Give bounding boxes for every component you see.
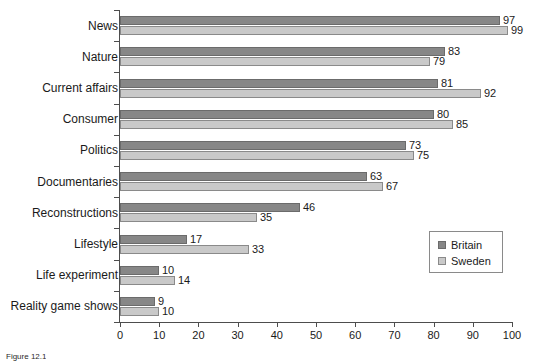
y-axis-tick <box>114 291 119 292</box>
bar-britain <box>120 172 367 181</box>
x-axis-tick-label: 30 <box>231 329 243 342</box>
y-axis-tick <box>114 10 119 11</box>
bar-value-label: 99 <box>511 25 523 36</box>
x-axis-tick <box>434 322 435 327</box>
bar-value-label: 35 <box>260 212 272 223</box>
bar-value-label: 85 <box>456 119 468 130</box>
legend-label-sweden: Sweden <box>451 255 491 267</box>
bar-value-label: 81 <box>441 78 453 89</box>
x-axis-tick <box>120 322 121 327</box>
x-axis-tick <box>473 322 474 327</box>
category-label: Consumer <box>0 112 118 126</box>
bar-sweden <box>120 182 383 191</box>
category-label: News <box>0 19 118 33</box>
x-axis-tick <box>159 322 160 327</box>
bar-value-label: 10 <box>162 306 174 317</box>
category-label: Reality game shows <box>0 299 118 313</box>
bar-value-label: 92 <box>484 88 496 99</box>
legend-swatch-britain <box>438 241 446 249</box>
legend-item-sweden: Sweden <box>438 255 491 267</box>
bar-britain <box>120 235 187 244</box>
category-label: Lifestyle <box>0 237 118 251</box>
x-axis-tick-label: 40 <box>271 329 283 342</box>
bar-value-label: 67 <box>386 181 398 192</box>
bar-value-label: 80 <box>437 109 449 120</box>
bar-britain <box>120 47 445 56</box>
category-label: Life experiment <box>0 268 118 282</box>
x-axis-tick <box>198 322 199 327</box>
legend-label-britain: Britain <box>451 239 482 251</box>
y-axis-tick <box>114 322 119 323</box>
figure-caption: Figure 12.1 <box>6 352 46 362</box>
y-axis-tick <box>114 197 119 198</box>
y-axis-tick <box>114 41 119 42</box>
x-axis-tick-label: 20 <box>192 329 204 342</box>
x-axis-tick <box>316 322 317 327</box>
category-label: Reconstructions <box>0 206 118 220</box>
bar-chart: 0102030405060708090100 News9799Nature837… <box>0 0 558 362</box>
bar-value-label: 75 <box>417 150 429 161</box>
y-axis-tick <box>114 260 119 261</box>
y-axis-tick <box>114 72 119 73</box>
bar-britain <box>120 203 300 212</box>
bar-sweden <box>120 245 249 254</box>
legend-swatch-sweden <box>438 257 446 265</box>
bar-sweden <box>120 307 159 316</box>
x-axis-tick <box>355 322 356 327</box>
bar-sweden <box>120 213 257 222</box>
bar-value-label: 17 <box>190 234 202 245</box>
category-label: Politics <box>0 143 118 157</box>
y-axis-tick <box>114 228 119 229</box>
x-axis-tick-label: 80 <box>427 329 439 342</box>
bar-sweden <box>120 26 508 35</box>
bar-britain <box>120 79 438 88</box>
bar-sweden <box>120 151 414 160</box>
chart-legend: Britain Sweden <box>429 231 503 273</box>
bar-britain <box>120 297 155 306</box>
x-axis-tick-label: 50 <box>310 329 322 342</box>
x-axis-tick-label: 10 <box>153 329 165 342</box>
bar-sweden <box>120 276 175 285</box>
bar-britain <box>120 141 406 150</box>
bar-value-label: 46 <box>303 202 315 213</box>
x-axis-tick-label: 70 <box>388 329 400 342</box>
x-axis-tick-label: 90 <box>467 329 479 342</box>
y-axis-tick <box>114 104 119 105</box>
x-axis-tick-label: 60 <box>349 329 361 342</box>
bar-sweden <box>120 89 481 98</box>
x-axis-tick <box>512 322 513 327</box>
category-label: Current affairs <box>0 81 118 95</box>
category-label: Documentaries <box>0 175 118 189</box>
bar-britain <box>120 266 159 275</box>
bar-value-label: 33 <box>252 244 264 255</box>
bar-value-label: 63 <box>370 171 382 182</box>
legend-item-britain: Britain <box>438 239 482 251</box>
bar-sweden <box>120 57 430 66</box>
y-axis-tick <box>114 166 119 167</box>
category-label: Nature <box>0 50 118 64</box>
bar-value-label: 10 <box>162 265 174 276</box>
x-axis-tick-label: 100 <box>503 329 521 342</box>
bar-britain <box>120 16 500 25</box>
x-axis-tick <box>277 322 278 327</box>
y-axis-tick <box>114 135 119 136</box>
x-axis-tick <box>238 322 239 327</box>
x-axis-tick <box>394 322 395 327</box>
bar-value-label: 14 <box>178 275 190 286</box>
bar-sweden <box>120 120 453 129</box>
bar-britain <box>120 110 434 119</box>
x-axis-tick-label: 0 <box>117 329 123 342</box>
bar-value-label: 83 <box>448 46 460 57</box>
bar-value-label: 79 <box>433 56 445 67</box>
